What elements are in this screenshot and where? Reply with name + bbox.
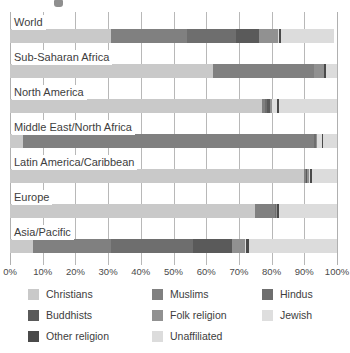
bar-segment [213, 64, 314, 78]
bar-segment [193, 239, 232, 253]
title-marker-icon [54, 0, 63, 7]
category-label: North America [12, 85, 87, 100]
plot-area: WorldSub-Saharan AfricaNorth AmericaMidd… [10, 12, 337, 265]
gridline-100 [337, 12, 338, 265]
x-tick-label: 10% [33, 266, 52, 278]
legend-label: Jewish [280, 309, 312, 321]
category-label: World [12, 15, 46, 30]
stacked-bar [10, 64, 337, 78]
bar-segment [10, 134, 23, 148]
x-tick-label: 60% [197, 266, 216, 278]
x-tick-label: 40% [131, 266, 150, 278]
stacked-bar [10, 29, 337, 43]
x-tick-label: 80% [262, 266, 281, 278]
bar-segment [281, 29, 333, 43]
bar-segment [187, 29, 236, 43]
bar-row: Latin America/Caribbean [10, 152, 337, 187]
stacked-bar-chart: WorldSub-Saharan AfricaNorth AmericaMidd… [0, 0, 350, 353]
stacked-bar [10, 99, 337, 113]
bar-segment [323, 134, 337, 148]
category-label: Middle East/North Africa [12, 120, 135, 135]
bar-segment [232, 239, 245, 253]
legend-label: Unaffiliated [170, 330, 222, 342]
legend-label: Folk religion [170, 309, 227, 321]
bar-segment [111, 29, 186, 43]
bar-segment [10, 239, 33, 253]
x-tick-label: 70% [229, 266, 248, 278]
x-axis: 0%10%20%30%40%50%60%70%80%90%100% [0, 266, 350, 282]
bar-segment [279, 204, 337, 218]
legend-swatch-icon [152, 310, 163, 321]
legend-item[interactable]: Unaffiliated [152, 328, 222, 344]
bar-segment [249, 239, 337, 253]
bar-segment [10, 204, 255, 218]
bar-row: Asia/Pacific [10, 222, 337, 257]
bar-row: Middle East/North Africa [10, 117, 337, 152]
bar-segment [111, 239, 193, 253]
legend-item[interactable]: Muslims [152, 286, 209, 302]
legend-swatch-icon [28, 331, 39, 342]
bar-segment [23, 134, 314, 148]
bar-segment [10, 99, 262, 113]
x-tick-label: 30% [99, 266, 118, 278]
legend-label: Christians [46, 288, 93, 300]
legend-item[interactable]: Folk religion [152, 307, 227, 323]
legend-swatch-icon [28, 310, 39, 321]
legend-swatch-icon [262, 310, 273, 321]
bar-segment [236, 29, 259, 43]
bar-row: Sub-Saharan Africa [10, 47, 337, 82]
x-tick-label: 50% [164, 266, 183, 278]
legend-item[interactable]: Buddhists [28, 307, 92, 323]
bar-segment [259, 29, 279, 43]
bar-segment [33, 239, 111, 253]
legend-swatch-icon [152, 331, 163, 342]
bar-segment [326, 64, 337, 78]
legend-item[interactable]: Other religion [28, 328, 109, 344]
bar-segment [10, 64, 213, 78]
bar-segment [314, 64, 324, 78]
x-tick-label: 90% [295, 266, 314, 278]
stacked-bar [10, 204, 337, 218]
legend-label: Muslims [170, 288, 209, 300]
bar-segment [312, 169, 337, 183]
legend-label: Buddhists [46, 309, 92, 321]
legend-swatch-icon [262, 289, 273, 300]
stacked-bar [10, 169, 337, 183]
stacked-bar [10, 239, 337, 253]
category-label: Europe [12, 190, 52, 205]
x-tick-label: 20% [66, 266, 85, 278]
legend-swatch-icon [152, 289, 163, 300]
legend-item[interactable]: Jewish [262, 307, 312, 323]
legend-item[interactable]: Christians [28, 286, 93, 302]
bar-segment [10, 169, 304, 183]
chart-legend: ChristiansMuslimsHindusBuddhistsFolk rel… [0, 286, 350, 348]
bar-row: Europe [10, 187, 337, 222]
category-label: Latin America/Caribbean [12, 155, 137, 170]
legend-label: Hindus [280, 288, 313, 300]
bar-segment [10, 29, 111, 43]
stacked-bar [10, 134, 337, 148]
legend-swatch-icon [28, 289, 39, 300]
legend-label: Other religion [46, 330, 109, 342]
bar-row: North America [10, 82, 337, 117]
bar-row: World [10, 12, 337, 47]
legend-item[interactable]: Hindus [262, 286, 313, 302]
category-label: Asia/Pacific [12, 225, 74, 240]
x-tick-label: 0% [3, 266, 17, 278]
bar-segment [255, 204, 275, 218]
category-label: Sub-Saharan Africa [12, 50, 112, 65]
x-tick-label: 100% [325, 266, 349, 278]
bar-segment [279, 99, 337, 113]
